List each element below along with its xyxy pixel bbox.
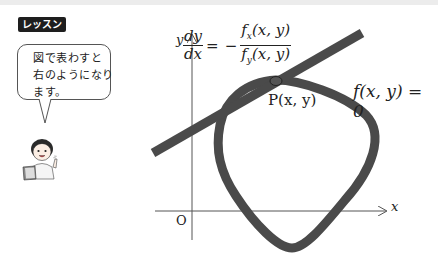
x-axis-label: x <box>391 199 398 214</box>
derivative-formula: dy dx = − fx(x, y) fy(x, y) <box>183 22 291 69</box>
point-p-marker <box>270 77 282 86</box>
equals-sign: = <box>206 37 219 55</box>
origin-label: O <box>176 213 187 228</box>
point-p-label: P(x, y) <box>268 91 316 109</box>
lhs-fraction: dy dx <box>183 28 203 63</box>
rhs-numerator: fx(x, y) <box>240 22 291 46</box>
lhs-numerator: dy <box>183 28 203 46</box>
curve-label: f(x, y) = 0 <box>353 81 438 121</box>
rhs-denominator: fy(x, y) <box>240 46 291 69</box>
y-axis-label: y <box>176 32 183 47</box>
rhs-fraction: fx(x, y) fy(x, y) <box>240 22 291 69</box>
minus-sign: − <box>225 37 238 55</box>
lhs-denominator: dx <box>183 46 203 63</box>
